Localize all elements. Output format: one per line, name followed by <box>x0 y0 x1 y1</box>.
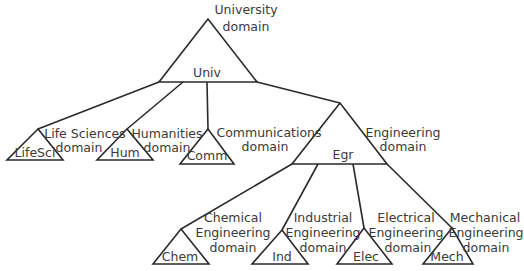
edge-univ-comm <box>207 82 208 129</box>
egr-domain-label-line2: domain <box>380 139 427 154</box>
mech-label: Mech <box>430 249 463 264</box>
university-domain-label-line1: University <box>214 2 278 17</box>
lifesci-domain-label-line1: Life Sciences <box>44 126 125 141</box>
comm-domain-label-line2: domain <box>242 139 289 154</box>
chem-domain-label-line3: domain <box>210 240 257 255</box>
hum-domain-label-line2: domain <box>144 140 191 155</box>
mech-domain-label-line2: Engineering <box>449 225 524 240</box>
ind-label: Ind <box>272 249 292 264</box>
hum-domain-label-line1: Humanities <box>131 126 202 141</box>
elec-domain-label-line3: domain <box>385 240 432 255</box>
comm-domain-label-line1: Communications <box>216 125 321 140</box>
ind-domain-label-line1: Industrial <box>294 210 353 225</box>
lifesci-label: LifeSci <box>15 145 56 160</box>
chem-label: Chem <box>162 249 199 264</box>
university-domain-label-line2: domain <box>223 19 270 34</box>
mech-domain-label-line3: domain <box>463 240 510 255</box>
hum-label: Hum <box>110 145 140 160</box>
node-chem: Chem Chemical Engineering domain <box>153 210 271 264</box>
edge-univ-hum <box>127 82 183 129</box>
edge-univ-lifesci <box>38 82 159 129</box>
chem-domain-label-line1: Chemical <box>204 210 262 225</box>
node-univ: Univ University domain <box>159 2 278 82</box>
edge-univ-egr <box>257 82 340 103</box>
egr-domain-label-line1: Engineering <box>366 125 441 140</box>
elec-domain-label-line1: Electrical <box>377 210 434 225</box>
elec-domain-label-line2: Engineering <box>369 225 444 240</box>
univ-label: Univ <box>193 65 222 80</box>
lifesci-domain-label-line2: domain <box>56 140 103 155</box>
comm-label: Comm <box>187 148 228 163</box>
elec-label: Elec <box>353 249 379 264</box>
egr-label: Egr <box>333 147 355 162</box>
chem-domain-label-line2: Engineering <box>196 225 271 240</box>
edge-egr-elec <box>353 164 364 228</box>
domain-hierarchy-diagram: Univ University domain LifeSci Life Scie… <box>0 0 524 271</box>
mech-domain-label-line1: Mechanical <box>450 210 520 225</box>
node-lifesci: LifeSci Life Sciences domain <box>7 126 126 160</box>
ind-domain-label-line2: Engineering <box>286 225 361 240</box>
ind-domain-label-line3: domain <box>300 240 347 255</box>
